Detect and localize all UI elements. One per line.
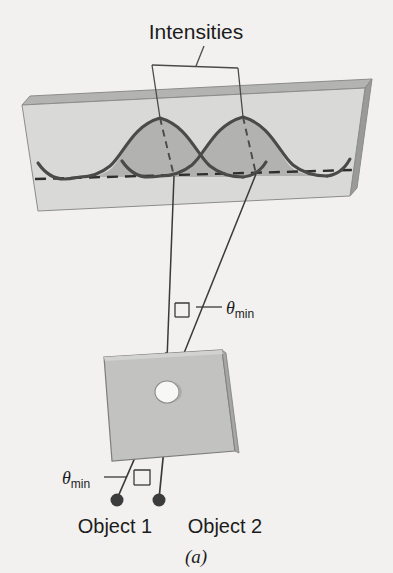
theta-symbol-upper: θ — [226, 298, 235, 318]
object-1-dot — [111, 494, 124, 507]
aperture-plate-face — [104, 350, 235, 461]
diagram-canvas: Intensities θmin — [0, 0, 393, 573]
theta-subscript-upper: min — [235, 307, 254, 321]
aperture-plate — [104, 350, 239, 461]
figure-rayleigh-criterion: Intensities θmin — [0, 0, 393, 573]
object-1-label: Object 1 — [78, 515, 152, 537]
object-2-dot — [153, 494, 166, 507]
object-2-label: Object 2 — [188, 515, 262, 537]
viewing-screen — [22, 79, 372, 211]
figure-caption: (a) — [185, 546, 207, 568]
aperture-hole — [155, 381, 179, 403]
theta-symbol-lower: θ — [62, 468, 71, 488]
theta-subscript-lower: min — [71, 477, 90, 491]
intensities-label: Intensities — [149, 20, 244, 43]
